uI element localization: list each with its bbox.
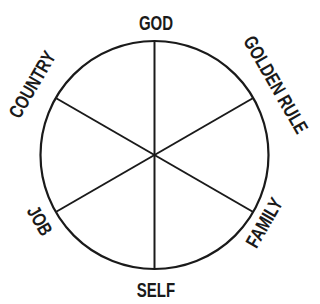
- label-country: COUNTRY: [4, 47, 60, 122]
- label-god: GOD: [139, 12, 173, 35]
- label-golden-rule: GOLDEN RULE: [239, 32, 313, 138]
- label-family: FAMILY: [241, 194, 287, 252]
- wheel-diagram: GOD GOLDEN RULE FAMILY SELF JOB COUNTRY: [0, 0, 320, 304]
- label-self: SELF: [137, 279, 175, 302]
